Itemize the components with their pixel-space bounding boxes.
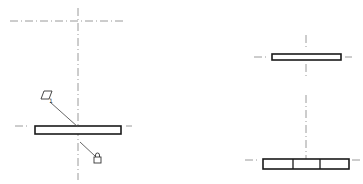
datum-leader-line	[80, 142, 95, 156]
flatness-subscript: 1	[49, 97, 53, 104]
right-bottom-view	[245, 95, 363, 169]
thin-plate	[272, 54, 341, 60]
horizontal-plate	[35, 126, 121, 134]
flatness-leader-line	[50, 102, 78, 127]
flatness-icon: 1	[41, 91, 53, 104]
technical-drawing-canvas: 1	[0, 0, 363, 184]
lock-icon	[94, 153, 101, 163]
right-top-view	[254, 35, 352, 79]
left-view: 1	[10, 8, 132, 180]
segmented-plate	[263, 159, 349, 169]
